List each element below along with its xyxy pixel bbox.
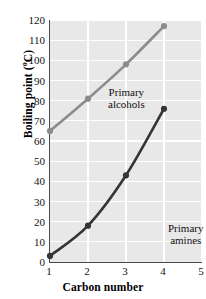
y-axis-tick-label: 110 [18, 35, 45, 45]
y-axis-tick-label: 90 [18, 76, 45, 86]
x-axis-title: Carbon number [0, 281, 206, 293]
x-axis-tick-label: 5 [191, 265, 206, 277]
data-point-marker [123, 61, 129, 67]
data-point-marker [85, 96, 91, 102]
x-axis-tick-label: 3 [115, 265, 135, 277]
chart-figure: Boiling point (oC) 120110100908070605040… [0, 0, 206, 299]
plot-area: Primary alcohols Primary amines [49, 20, 202, 263]
y-axis-tick-label: 60 [18, 136, 45, 146]
series-line [50, 109, 164, 256]
annotation-primary-amines: Primary amines [168, 222, 203, 246]
annotation-alcohols-line1: Primary [108, 86, 145, 98]
data-point-marker [161, 23, 167, 29]
y-axis-tick-labels: 1201101009080706050403020100 [17, 0, 45, 299]
y-axis-tick-label: 30 [18, 197, 45, 207]
annotation-primary-alcohols: Primary alcohols [108, 86, 145, 110]
data-point-marker [161, 106, 167, 112]
series-line [50, 26, 164, 131]
data-point-marker [47, 128, 53, 134]
data-point-marker [47, 253, 53, 259]
y-axis-tick-label: 40 [18, 176, 45, 186]
y-axis-tick-label: 50 [18, 156, 45, 166]
y-axis-tick-label: 100 [18, 55, 45, 65]
x-axis-tick-labels: 12345 [49, 265, 206, 281]
x-axis-tick-label: 4 [153, 265, 173, 277]
x-axis-tick-label: 2 [77, 265, 97, 277]
annotation-alcohols-line2: alcohols [108, 98, 145, 110]
y-axis-tick-label: 120 [18, 15, 45, 25]
y-axis-tick-label: 80 [18, 96, 45, 106]
data-point-marker [123, 172, 129, 178]
annotation-amines-line2: amines [168, 234, 203, 246]
y-axis-tick-label: 70 [18, 116, 45, 126]
y-axis-tick-label: 20 [18, 217, 45, 227]
data-point-marker [85, 223, 91, 229]
y-axis-tick-label: 10 [18, 237, 45, 247]
x-axis-tick-label: 1 [39, 265, 59, 277]
annotation-amines-line1: Primary [168, 222, 203, 234]
